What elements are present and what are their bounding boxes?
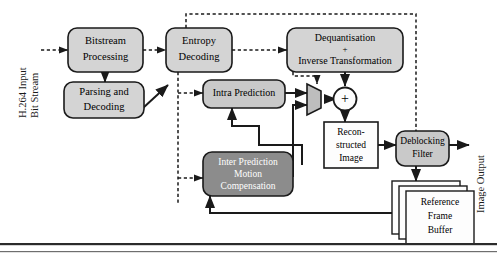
node-recon-line1: Recon- <box>337 127 364 137</box>
image-output-label: Image Output <box>475 155 486 213</box>
node-refbuffer-line1: Reference <box>421 197 460 207</box>
node-inter-line2: Motion <box>234 169 262 179</box>
node-entropy-line2: Decoding <box>179 51 221 62</box>
node-deblock-line2: Filter <box>412 149 433 159</box>
node-parsing-line1: Parsing and <box>79 86 129 97</box>
node-refbuffer-line3: Buffer <box>428 225 453 235</box>
node-parsing-decoding[interactable]: Parsing and Decoding <box>64 82 144 118</box>
node-reference-frame-buffer[interactable]: Reference Frame Buffer <box>392 181 474 244</box>
node-entropy-line1: Entropy <box>182 35 217 46</box>
node-deblocking-filter[interactable]: Deblocking Filter <box>396 131 449 166</box>
node-bitstream-line2: Processing <box>83 51 129 62</box>
edge-refbuffer-to-inter <box>210 196 392 213</box>
adder-node[interactable]: + <box>334 88 357 111</box>
node-intra-label: Intra Prediction <box>213 87 275 98</box>
output-label: Image Output <box>475 155 486 213</box>
node-reconstructed-image[interactable]: Recon- structed Image <box>324 122 378 168</box>
edge-parsing-to-entropy <box>143 85 168 108</box>
node-recon-line2: structed <box>336 140 366 150</box>
node-bitstream-processing[interactable]: Bitstream Processing <box>68 28 143 72</box>
edge-inter-to-mux <box>293 105 307 177</box>
h264-decoder-diagram: Bitstream Processing Parsing and Decodin… <box>0 0 497 259</box>
node-bitstream-line1: Bitstream <box>85 35 126 46</box>
node-inter-line3: Compensation <box>221 181 276 191</box>
mux-selector[interactable] <box>307 84 321 115</box>
node-deblock-line1: Deblocking <box>400 136 445 146</box>
edge-mux-control <box>293 72 317 84</box>
node-refbuffer-line2: Frame <box>428 211 452 221</box>
node-parsing-line2: Decoding <box>84 101 126 112</box>
node-intra-prediction[interactable]: Intra Prediction <box>203 80 285 108</box>
input-label-line2: Bit Stream <box>29 73 40 118</box>
node-entropy-decoding[interactable]: Entropy Decoding <box>166 28 232 72</box>
node-dequantisation-inverse-transformation[interactable]: Dequantisation + Inverse Transformation <box>287 28 403 72</box>
node-dequant-line1: Dequantisation <box>315 32 376 43</box>
adder-plus-symbol: + <box>341 91 349 106</box>
diagram-canvas: Bitstream Processing Parsing and Decodin… <box>0 0 497 259</box>
input-label-line1: H.264 Input <box>17 67 28 118</box>
node-inter-line1: Inter Prediction <box>218 157 278 167</box>
node-recon-line3: Image <box>339 153 363 163</box>
node-dequant-line2: + <box>342 44 347 54</box>
bottom-rule <box>0 243 497 252</box>
node-inter-prediction-motion-compensation[interactable]: Inter Prediction Motion Compensation <box>203 152 293 196</box>
input-stream-label: H.264 Input Bit Stream <box>17 67 40 118</box>
node-dequant-line3: Inverse Transformation <box>298 55 392 66</box>
